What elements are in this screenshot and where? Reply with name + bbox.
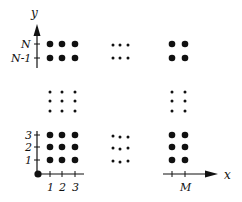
ellipsis-middle-right [171, 91, 187, 113]
x-tick-label-2: 2 [58, 181, 66, 194]
points-bottom-right [169, 132, 189, 164]
x-tick-label-M: M [179, 181, 192, 194]
points-bottom-left [47, 132, 79, 164]
ellipsis-bottom-middle [112, 135, 130, 164]
points-top-left [47, 41, 79, 62]
y-tick-label-1: 1 [25, 154, 32, 167]
lattice-diagram: y x N N-1 3 2 1 1 2 3 M [0, 0, 242, 202]
ellipsis-middle-left [49, 91, 77, 113]
x-tick-label-3: 3 [72, 181, 79, 194]
x-axis-arrowhead-icon [205, 171, 218, 178]
points-top-right [169, 41, 189, 62]
origin-point [34, 170, 41, 177]
x-axis [37, 171, 218, 178]
y-tick-label-N-1: N-1 [10, 52, 31, 65]
x-axis-label: x [224, 168, 231, 182]
y-tick-label-2: 2 [24, 141, 32, 154]
x-tick-label-1: 1 [47, 181, 54, 194]
y-axis-label: y [30, 6, 38, 20]
ellipsis-top-middle [112, 44, 130, 60]
y-tick-label-N: N [20, 38, 31, 51]
y-axis-arrowhead-icon [34, 24, 41, 36]
y-axis [34, 24, 41, 174]
